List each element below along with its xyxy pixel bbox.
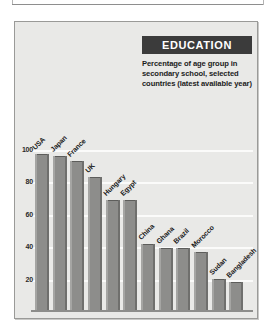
bar-top-edge	[178, 248, 188, 249]
y-axis-tick-label: 40	[17, 243, 33, 250]
x-axis-baseline	[31, 310, 253, 312]
bar-top-edge	[231, 282, 241, 283]
y-axis-tick-label: 80	[17, 178, 33, 185]
chart-subtitle: Percentage of age group in secondary sch…	[142, 59, 254, 90]
page-top-rule	[0, 0, 278, 14]
chart-title: EDUCATION	[142, 39, 252, 51]
bar	[53, 156, 67, 310]
bar	[70, 161, 84, 310]
bar-top-edge	[125, 200, 135, 201]
gridline	[31, 150, 253, 152]
bar-top-edge	[161, 248, 171, 249]
bar-group: Brazil	[176, 248, 190, 310]
bar	[88, 177, 102, 310]
top-rule-cap-right	[263, 0, 264, 5]
bar-group: Japan	[53, 156, 67, 310]
bar	[229, 282, 243, 310]
y-axis-tick-label: 100	[17, 146, 33, 153]
top-rule-line	[12, 4, 264, 5]
bar-top-edge	[108, 200, 118, 201]
bar-group: Ghana	[159, 248, 173, 310]
bar-top-edge	[143, 244, 153, 245]
bar-top-edge	[37, 154, 47, 155]
chart-title-band: EDUCATION	[142, 36, 252, 54]
bar	[141, 244, 155, 310]
bar-group: UK	[88, 177, 102, 310]
bar-group: Bangladesh	[229, 282, 243, 310]
bar	[159, 248, 173, 310]
bar-top-edge	[55, 156, 65, 157]
bar-top-edge	[90, 177, 100, 178]
bar-top-edge	[214, 279, 224, 280]
bar-group: Morocco	[194, 252, 208, 310]
bar-group: Egypt	[123, 200, 137, 310]
bar	[35, 154, 49, 310]
bar	[106, 200, 120, 310]
bar-group: Hungary	[106, 200, 120, 310]
bar-group: Sudan	[212, 279, 226, 310]
bar	[123, 200, 137, 310]
bar-top-edge	[72, 161, 82, 162]
bar	[176, 248, 190, 310]
bar-group: USA	[35, 154, 49, 310]
bar-top-edge	[196, 252, 206, 253]
y-axis-tick-label: 60	[17, 211, 33, 218]
bar	[212, 279, 226, 310]
y-axis-tick-label: 20	[17, 276, 33, 283]
chart-panel: 20406080100 EDUCATION Percentage of age …	[14, 21, 258, 319]
bar	[194, 252, 208, 310]
bar-group: France	[70, 161, 84, 310]
bar-group: China	[141, 244, 155, 310]
